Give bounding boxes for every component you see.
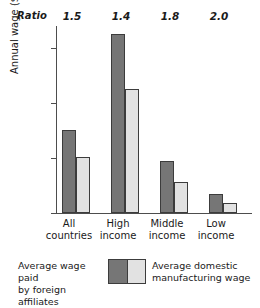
legend-label-line-1: Average wage paid bbox=[18, 260, 104, 284]
bar-domestic-middle-income bbox=[174, 182, 188, 213]
legend-label-domestic-wage: Average domestic manufacturing wage bbox=[152, 260, 252, 284]
bar-domestic-high-income bbox=[125, 89, 139, 213]
bar-foreign-high-income bbox=[111, 34, 125, 213]
ratio-value-middle-income: 1.8 bbox=[148, 10, 192, 22]
ratio-label: Ratio bbox=[17, 10, 47, 21]
category-line-1: Low bbox=[185, 218, 247, 230]
legend-label-foreign-affiliates: Average wage paid by foreign affiliates bbox=[18, 260, 104, 308]
legend-swatch-domestic bbox=[128, 259, 147, 284]
ratio-value-high-income: 1.4 bbox=[99, 10, 143, 22]
chart-legend: Average wage paid by foreign affiliates … bbox=[0, 258, 260, 292]
legend-label-line-2: by foreign affiliates bbox=[18, 284, 104, 308]
bar-foreign-middle-income bbox=[160, 161, 174, 213]
plot-area: 0 10 20 30 Annual wage ($'000) bbox=[56, 26, 252, 214]
y-tick-10 bbox=[51, 158, 56, 159]
legend-label-line-2: manufacturing wage bbox=[152, 272, 252, 284]
category-label-low-income: Low income bbox=[185, 218, 247, 241]
x-axis-line bbox=[56, 213, 252, 214]
legend-swatch-foreign bbox=[108, 259, 128, 284]
y-tick-0 bbox=[51, 213, 56, 214]
bar-foreign-low-income bbox=[209, 194, 223, 213]
bar-domestic-all-countries bbox=[76, 157, 90, 213]
y-axis-label: Annual wage ($'000) bbox=[9, 0, 20, 74]
y-tick-30 bbox=[51, 48, 56, 49]
bar-domestic-low-income bbox=[223, 203, 237, 213]
y-axis-line bbox=[56, 26, 57, 214]
legend-label-line-1: Average domestic bbox=[152, 260, 252, 272]
legend-swatch bbox=[108, 259, 146, 284]
ratio-value-all-countries: 1.5 bbox=[50, 10, 94, 22]
y-tick-20 bbox=[51, 103, 56, 104]
bar-foreign-all-countries bbox=[62, 130, 76, 213]
category-line-2: income bbox=[185, 230, 247, 242]
ratio-annotation-row: Ratio 1.5 1.4 1.8 2.0 bbox=[0, 8, 260, 28]
ratio-value-low-income: 2.0 bbox=[197, 10, 241, 22]
